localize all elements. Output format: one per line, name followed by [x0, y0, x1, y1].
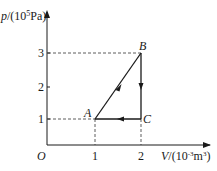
y-tick-3: 3 [38, 46, 44, 60]
point-C-label: C [143, 112, 152, 126]
arrow-CA-icon [117, 117, 124, 122]
arrow-BC-icon [139, 83, 144, 90]
cycle-path [95, 53, 144, 122]
x-axis [47, 142, 211, 148]
point-A-label: A [83, 106, 92, 120]
pv-diagram: p/(105Pa) V/(10-3m3) 3 2 1 1 2 O A B C [0, 0, 217, 171]
guide-lines [48, 53, 141, 145]
y-axis-label: p/(105Pa) [0, 9, 46, 23]
y-axis [44, 10, 50, 145]
segment-BA [95, 53, 141, 119]
x-axis-arrow-icon [203, 142, 211, 148]
point-B-label: B [139, 39, 147, 53]
x-tick-2: 2 [138, 149, 144, 163]
x-axis-label: V/(10-3m3) [161, 149, 210, 163]
y-tick-1: 1 [38, 112, 44, 126]
y-tick-2: 2 [38, 80, 44, 94]
origin-label: O [37, 149, 46, 163]
x-tick-1: 1 [92, 149, 98, 163]
